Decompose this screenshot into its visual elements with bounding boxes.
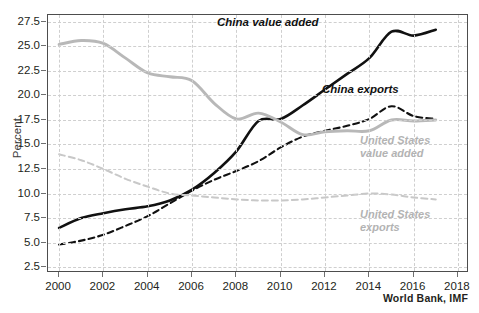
- y-tick-mark: [41, 193, 46, 194]
- gridline-vertical: [325, 15, 326, 271]
- y-tick-mark: [41, 94, 46, 95]
- y-tick-label: 10.0: [6, 188, 40, 198]
- x-tick-label: 2008: [213, 280, 257, 292]
- x-tick-label: 2014: [346, 280, 390, 292]
- y-tick-mark: [41, 119, 46, 120]
- y-tick-label: 27.5: [6, 16, 40, 26]
- y-tick-label: 20.0: [6, 89, 40, 99]
- series-label-china-exports: China exports: [322, 83, 399, 96]
- y-axis-tick-labels: 2.55.07.510.012.515.017.520.022.525.027.…: [0, 0, 40, 313]
- y-tick-label: 5.0: [6, 237, 40, 247]
- y-tick-label: 25.0: [6, 40, 40, 50]
- x-tick-mark: [413, 272, 414, 277]
- x-tick-mark: [102, 272, 103, 277]
- gridline-vertical: [192, 15, 193, 271]
- y-tick-mark: [41, 21, 46, 22]
- y-tick-label: 2.5: [6, 261, 40, 271]
- y-tick-mark: [41, 70, 46, 71]
- x-tick-mark: [58, 272, 59, 277]
- x-tick-label: 2010: [258, 280, 302, 292]
- y-tick-mark: [41, 217, 46, 218]
- y-tick-label: 7.5: [6, 212, 40, 222]
- x-tick-label: 2004: [125, 280, 169, 292]
- x-tick-label: 2002: [80, 280, 124, 292]
- x-tick-mark: [457, 272, 458, 277]
- series-label-us-value-added: United States value added: [360, 134, 430, 160]
- y-tick-label: 22.5: [6, 65, 40, 75]
- series-label-china-value-added: China value added: [217, 16, 319, 29]
- y-tick-mark: [41, 143, 46, 144]
- y-tick-label: 15.0: [6, 138, 40, 148]
- y-tick-mark: [41, 266, 46, 267]
- gridline-horizontal: [48, 267, 467, 268]
- gridline-horizontal: [48, 71, 467, 72]
- gridline-horizontal: [48, 46, 467, 47]
- gridline-vertical: [103, 15, 104, 271]
- gridline-vertical: [236, 15, 237, 271]
- gridline-horizontal: [48, 243, 467, 244]
- series-label-us-exports: United States exports: [360, 208, 430, 234]
- gridline-vertical: [59, 15, 60, 271]
- x-tick-mark: [147, 272, 148, 277]
- x-tick-mark: [280, 272, 281, 277]
- chart-container: Percent 2.55.07.510.012.515.017.520.022.…: [0, 0, 479, 313]
- x-tick-mark: [191, 272, 192, 277]
- x-tick-label: 2018: [435, 280, 479, 292]
- y-tick-label: 17.5: [6, 114, 40, 124]
- y-tick-mark: [41, 45, 46, 46]
- x-tick-label: 2012: [302, 280, 346, 292]
- gridline-vertical: [281, 15, 282, 271]
- source-credit: World Bank, IMF: [383, 292, 468, 304]
- y-tick-mark: [41, 168, 46, 169]
- x-tick-mark: [368, 272, 369, 277]
- gridline-vertical: [148, 15, 149, 271]
- gridline-horizontal: [48, 169, 467, 170]
- y-tick-mark: [41, 242, 46, 243]
- x-tick-label: 2016: [391, 280, 435, 292]
- gridline-vertical: [458, 15, 459, 271]
- x-tick-label: 2006: [169, 280, 213, 292]
- gridline-horizontal: [48, 95, 467, 96]
- x-tick-mark: [324, 272, 325, 277]
- gridline-horizontal: [48, 120, 467, 121]
- gridline-horizontal: [48, 194, 467, 195]
- x-tick-mark: [235, 272, 236, 277]
- y-tick-label: 12.5: [6, 163, 40, 173]
- x-tick-label: 2000: [36, 280, 80, 292]
